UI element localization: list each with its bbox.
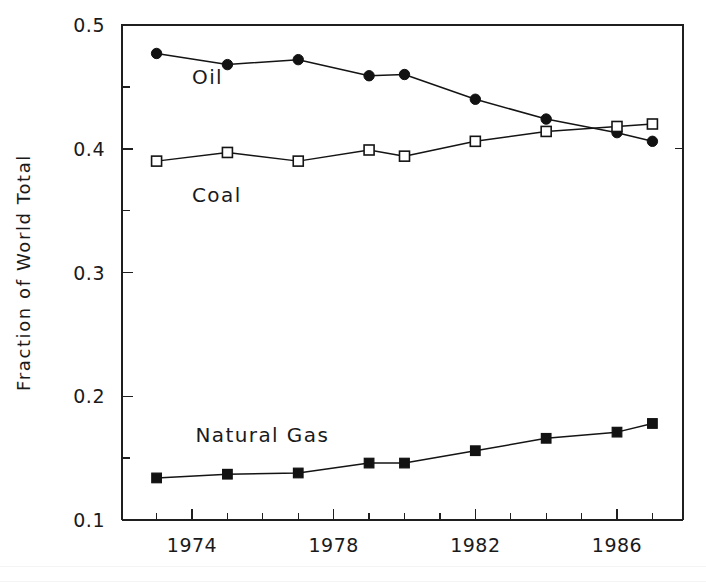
data-point (612, 121, 622, 131)
data-point (223, 469, 233, 479)
data-point (471, 446, 481, 456)
x-tick-label-1: 1978 (308, 534, 358, 556)
data-point (293, 468, 303, 478)
data-point (151, 48, 161, 58)
data-point (400, 458, 410, 468)
data-point (612, 427, 622, 437)
y-tick-label-4: 0.1 (73, 509, 105, 531)
x-tick-label-3: 1986 (592, 534, 642, 556)
data-point (293, 156, 303, 166)
data-point (152, 473, 162, 483)
series-annotation-oil: Oil (192, 65, 223, 89)
y-axis-title: Fraction of World Total (13, 154, 34, 391)
series-annotation-natural-gas: Natural Gas (196, 423, 330, 447)
line-chart-svg: 0.50.40.30.20.11974197819821986 OilCoalN… (0, 0, 706, 587)
data-point (541, 114, 551, 124)
chart-series (151, 48, 657, 482)
data-point (470, 136, 480, 146)
data-point (364, 145, 374, 155)
chart-series-annotations: OilCoalNatural Gas (192, 65, 329, 447)
chart-figure: 0.50.40.30.20.11974197819821986 OilCoalN… (0, 0, 706, 587)
chart-axis-title: Fraction of World Total (13, 154, 34, 391)
data-point (152, 156, 162, 166)
y-tick-label-0: 0.5 (73, 14, 105, 36)
data-point (399, 69, 409, 79)
data-point (400, 151, 410, 161)
series-oil (151, 48, 657, 146)
y-tick-label-2: 0.3 (73, 262, 105, 284)
data-point (470, 94, 480, 104)
x-tick-label-0: 1974 (167, 534, 217, 556)
data-point (364, 71, 374, 81)
x-tick-label-2: 1982 (450, 534, 500, 556)
data-point (647, 136, 657, 146)
data-point (647, 119, 657, 129)
data-point (648, 419, 658, 429)
y-tick-label-3: 0.2 (73, 385, 105, 407)
data-point (541, 126, 551, 136)
y-tick-label-1: 0.4 (73, 138, 105, 160)
data-point (364, 458, 374, 468)
data-point (541, 434, 551, 444)
data-point (293, 54, 303, 64)
data-point (222, 147, 232, 157)
data-point (222, 59, 232, 69)
series-annotation-coal: Coal (192, 183, 242, 207)
